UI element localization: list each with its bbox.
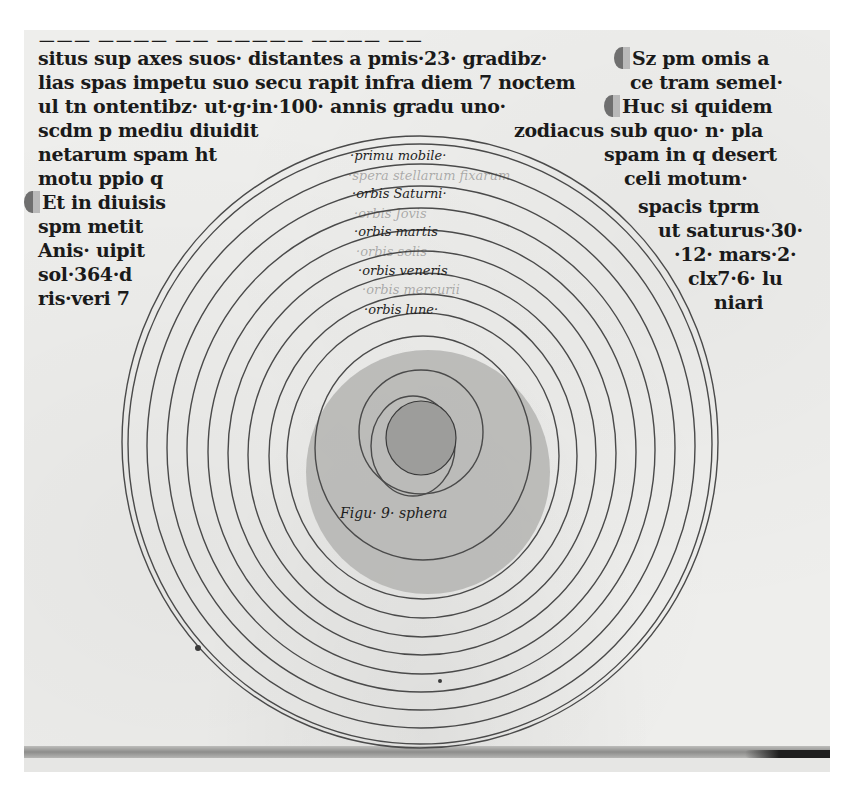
sphere-label-saturn: ·orbis Saturni· (352, 186, 447, 201)
sphere-label-jupiter: ·orbis Jovis (354, 206, 427, 221)
sphere-label-moon: ·orbis lune· (364, 302, 438, 317)
sphere-label-mars: ·orbis martis (354, 224, 438, 239)
sphere-label-sun: ·orbis solis (356, 244, 427, 259)
ink-blot (195, 645, 201, 651)
sphere-label-mercury: ·orbis mercurii (362, 282, 460, 297)
sphere-label-venus: ·orbis veneris (358, 263, 448, 278)
figure-caption: Figu· 9· sphera (340, 505, 447, 521)
central-earth-core (386, 401, 456, 475)
sphere-label-primum-mobile: ·primu mobile· (350, 148, 446, 163)
celestial-spheres-diagram (0, 0, 851, 802)
ink-dot (438, 679, 442, 683)
sphere-label-fixed-stars: ·spera stellarum fixarum (348, 168, 510, 183)
